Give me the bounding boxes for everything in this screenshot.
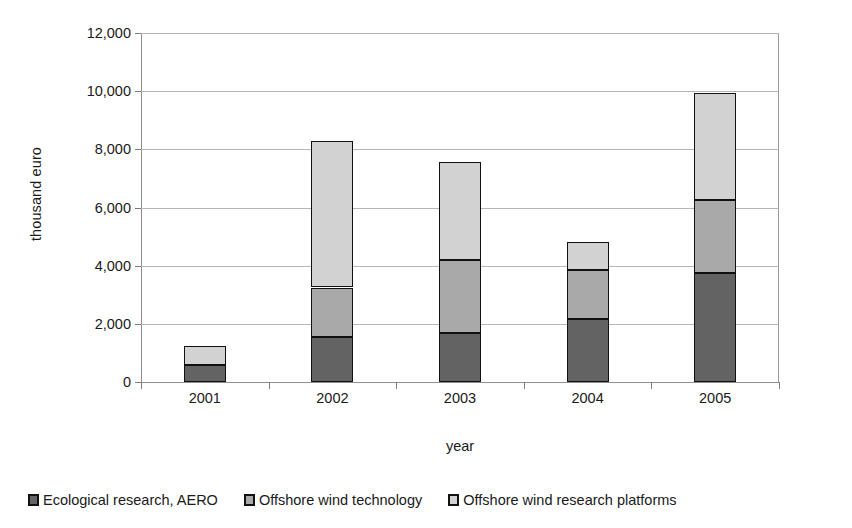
plot-area: 02,0004,0006,0008,00010,00012,000 200120…	[141, 33, 779, 382]
bar-segment	[694, 93, 736, 200]
bar-segment	[567, 319, 609, 382]
gridline	[141, 382, 779, 383]
stacked-bar-chart: thousand euro 02,0004,0006,0008,00010,00…	[0, 0, 852, 528]
bar-segment	[311, 141, 353, 288]
bar-segment	[311, 288, 353, 338]
y-axis-tick-label: 6,000	[95, 200, 131, 216]
x-axis-tick-mark	[651, 382, 652, 389]
y-axis-tick-label: 0	[123, 374, 131, 390]
legend-label: Ecological research, AERO	[43, 492, 218, 508]
y-axis-title: thousand euro	[28, 114, 44, 274]
bar-column	[184, 33, 226, 382]
y-axis-tick-label: 4,000	[95, 258, 131, 274]
legend-swatch-icon	[28, 494, 39, 506]
x-axis-tick-mark	[269, 382, 270, 389]
legend-label: Offshore wind research platforms	[463, 492, 676, 508]
x-axis-tick-label: 2003	[412, 390, 508, 406]
x-axis-tick-label: 2001	[157, 390, 253, 406]
x-axis-tick-label: 2004	[540, 390, 636, 406]
bar-column	[567, 33, 609, 382]
bar-column	[694, 33, 736, 382]
bar-segment	[694, 200, 736, 273]
bar-column	[311, 33, 353, 382]
x-axis-tick-label: 2005	[667, 390, 763, 406]
legend-item: Ecological research, AERO	[28, 492, 218, 508]
bar-segment	[311, 337, 353, 382]
x-axis-tick-mark	[141, 382, 142, 389]
y-axis-tick-label: 12,000	[87, 25, 131, 41]
bar-segment	[184, 346, 226, 365]
y-axis-tick-label: 8,000	[95, 141, 131, 157]
bar-segment	[567, 242, 609, 271]
x-axis-tick-label: 2002	[284, 390, 380, 406]
bar-column	[439, 33, 481, 382]
legend-swatch-icon	[448, 494, 459, 506]
bar-segment	[439, 260, 481, 333]
legend-item: Offshore wind research platforms	[448, 492, 676, 508]
x-axis-tick-mark	[396, 382, 397, 389]
bar-segment	[567, 270, 609, 319]
legend-item: Offshore wind technology	[244, 492, 422, 508]
y-axis-tick-label: 2,000	[95, 316, 131, 332]
bar-segment	[439, 162, 481, 260]
bar-segment	[439, 333, 481, 382]
legend-swatch-icon	[244, 494, 255, 506]
bar-segment	[694, 273, 736, 382]
y-axis-tick-label: 10,000	[87, 83, 131, 99]
bar-segment	[184, 365, 226, 382]
x-axis-tick-mark	[524, 382, 525, 389]
chart-legend: Ecological research, AEROOffshore wind t…	[28, 492, 677, 508]
x-axis-tick-mark	[779, 382, 780, 389]
legend-label: Offshore wind technology	[259, 492, 422, 508]
x-axis-title: year	[141, 438, 779, 454]
